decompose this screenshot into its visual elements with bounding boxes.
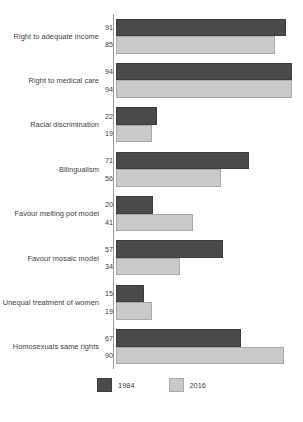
value-labels: 71 56	[104, 147, 116, 191]
legend-item-1984: 1984	[97, 378, 134, 392]
bar-1984	[116, 196, 153, 214]
chart-row: Right to medical care 94 94	[0, 58, 303, 102]
category-label: Right to medical care	[0, 76, 104, 85]
bar-wrap-2016	[116, 214, 303, 232]
bar-wrap-2016	[116, 36, 303, 54]
chart-legend: 1984 2016	[0, 378, 303, 392]
bar-group	[116, 192, 303, 236]
bar-wrap-1984	[116, 63, 303, 81]
bar-wrap-2016	[116, 347, 303, 365]
category-label: Favour melting pot model	[0, 209, 104, 218]
bar-2016	[116, 347, 284, 365]
value-labels: 15 19	[104, 280, 116, 324]
bar-2016	[116, 302, 152, 320]
bar-group	[116, 14, 303, 58]
value-labels: 20 41	[104, 192, 116, 236]
bar-group	[116, 236, 303, 280]
bar-group	[116, 103, 303, 147]
legend-swatch-1984	[97, 378, 112, 392]
category-label: Right to adequate income	[0, 32, 104, 41]
bar-group	[116, 147, 303, 191]
bar-wrap-1984	[116, 107, 303, 125]
category-label: Bilingualism	[0, 165, 104, 174]
bar-2016	[116, 36, 275, 54]
category-label: Homosexuals same rights	[0, 342, 104, 351]
value-labels: 94 94	[104, 58, 116, 102]
bar-1984	[116, 240, 223, 258]
bar-wrap-1984	[116, 240, 303, 258]
value-labels: 91 85	[104, 14, 116, 58]
bar-wrap-1984	[116, 329, 303, 347]
bar-wrap-1984	[116, 285, 303, 303]
bar-wrap-2016	[116, 258, 303, 276]
legend-swatch-2016	[169, 378, 184, 392]
bar-1984	[116, 152, 249, 170]
bar-group	[116, 58, 303, 102]
chart-row: Right to adequate income 91 85	[0, 14, 303, 58]
value-labels: 57 34	[104, 236, 116, 280]
bar-group	[116, 280, 303, 324]
bar-1984	[116, 107, 157, 125]
value-labels: 67 90	[104, 325, 116, 369]
category-label: Racial discrimination	[0, 120, 104, 129]
bar-1984	[116, 19, 286, 37]
plot-area: Right to adequate income 91 85 Right to …	[0, 14, 303, 369]
bar-wrap-1984	[116, 19, 303, 37]
value-labels: 22 19	[104, 103, 116, 147]
legend-item-2016: 2016	[169, 378, 206, 392]
bar-wrap-2016	[116, 302, 303, 320]
chart-row: Favour mosaic model 57 34	[0, 236, 303, 280]
bar-wrap-2016	[116, 80, 303, 98]
chart-rows: Right to adequate income 91 85 Right to …	[0, 14, 303, 369]
chart-row: Unequal treatment of women 15 19	[0, 280, 303, 324]
chart-row: Bilingualism 71 56	[0, 147, 303, 191]
bar-wrap-1984	[116, 152, 303, 170]
bar-group	[116, 325, 303, 369]
grouped-bar-chart: Right to adequate income 91 85 Right to …	[0, 0, 303, 422]
chart-row: Racial discrimination 22 19	[0, 103, 303, 147]
bar-wrap-1984	[116, 196, 303, 214]
bar-2016	[116, 169, 221, 187]
chart-row: Favour melting pot model 20 41	[0, 192, 303, 236]
chart-row: Homosexuals same rights 67 90	[0, 325, 303, 369]
category-axis-line	[113, 14, 114, 369]
legend-label-1984: 1984	[118, 381, 134, 390]
bar-wrap-2016	[116, 169, 303, 187]
bar-2016	[116, 214, 193, 232]
category-label: Unequal treatment of women	[0, 298, 104, 307]
legend-label-2016: 2016	[190, 381, 206, 390]
bar-1984	[116, 63, 292, 81]
bar-2016	[116, 125, 152, 143]
bar-wrap-2016	[116, 125, 303, 143]
category-label: Favour mosaic model	[0, 254, 104, 263]
bar-1984	[116, 329, 241, 347]
bar-2016	[116, 80, 292, 98]
bar-2016	[116, 258, 180, 276]
bar-1984	[116, 285, 144, 303]
